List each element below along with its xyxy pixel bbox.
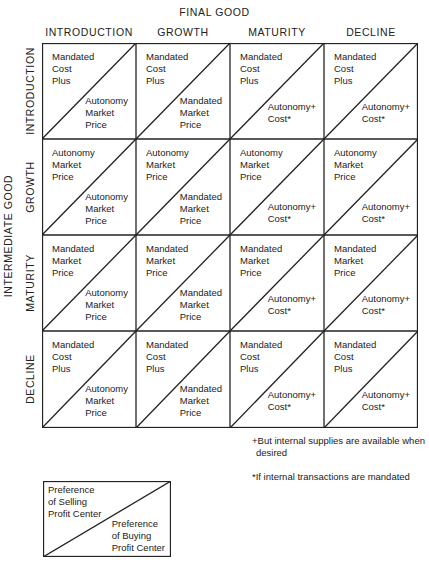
- selling-preference: MandatedCostPlus: [52, 339, 94, 375]
- text-line: Market: [240, 255, 282, 267]
- buying-preference: Autonomy+Cost*: [362, 389, 410, 413]
- text-line: Price: [180, 311, 222, 323]
- footnote-line: +But internal supplies are available whe…: [252, 435, 425, 447]
- selling-preference: AutonomyMarketPrice: [52, 147, 95, 183]
- text-line: Cost*: [362, 305, 410, 317]
- cell-maturity-maturity: MandatedMarketPrice Autonomy+Cost*: [230, 235, 324, 331]
- buying-preference: AutonomyMarketPrice: [85, 95, 128, 131]
- text-line: Market: [146, 255, 188, 267]
- cell-maturity-intro: MandatedMarketPrice AutonomyMarketPrice: [42, 235, 136, 331]
- text-line: Cost*: [268, 213, 316, 225]
- column-header-growth: GROWTH: [136, 26, 230, 38]
- text-line: Autonomy: [85, 95, 128, 107]
- cell-decline-maturity: MandatedCostPlus Autonomy+Cost*: [230, 331, 324, 427]
- text-line: Market: [180, 395, 222, 407]
- text-line: Autonomy+: [268, 293, 316, 305]
- selling-preference: AutonomyMarketPrice: [240, 147, 283, 183]
- column-header-maturity: MATURITY: [230, 26, 324, 38]
- text-line: Price: [85, 407, 128, 419]
- text-line: Cost*: [268, 113, 316, 125]
- final-good-axis-title: FINAL GOOD: [0, 6, 429, 18]
- text-line: Price: [52, 171, 95, 183]
- column-header-introduction: INTRODUCTION: [42, 26, 136, 38]
- text-line: Price: [180, 407, 222, 419]
- selling-preference: MandatedCostPlus: [240, 339, 282, 375]
- text-line: Autonomy: [85, 383, 128, 395]
- text-line: Cost*: [362, 213, 410, 225]
- cell-intro-growth: MandatedCostPlus MandatedMarketPrice: [136, 43, 230, 139]
- buying-preference: MandatedMarketPrice: [180, 95, 222, 131]
- selling-preference: AutonomyMarketPrice: [146, 147, 189, 183]
- text-line: Plus: [146, 75, 188, 87]
- text-line: of Buying: [112, 530, 165, 542]
- selling-preference: MandatedCostPlus: [334, 339, 376, 375]
- text-line: Market: [240, 159, 283, 171]
- buying-preference: Autonomy+Cost*: [362, 101, 410, 125]
- text-line: Market: [334, 255, 376, 267]
- selling-preference: AutonomyMarketPrice: [334, 147, 377, 183]
- row-header-decline: DECLINE: [24, 331, 38, 427]
- text-line: Mandated: [334, 243, 376, 255]
- text-line: Cost*: [362, 113, 410, 125]
- text-line: Plus: [52, 75, 94, 87]
- text-line: Cost: [240, 351, 282, 363]
- text-line: Mandated: [52, 51, 94, 63]
- text-line: Mandated: [334, 51, 376, 63]
- text-line: Market: [334, 159, 377, 171]
- text-line: Autonomy+: [268, 101, 316, 113]
- text-line: Mandated: [180, 287, 222, 299]
- cell-growth-maturity: AutonomyMarketPrice Autonomy+Cost*: [230, 139, 324, 235]
- text-line: Price: [334, 267, 376, 279]
- text-line: Autonomy: [240, 147, 283, 159]
- buying-preference: Autonomy+Cost*: [362, 201, 410, 225]
- text-line: Price: [240, 171, 283, 183]
- text-line: Cost: [146, 63, 188, 75]
- footnote-line: desired: [252, 447, 425, 459]
- text-line: Autonomy+: [362, 101, 410, 113]
- transfer-pricing-matrix: MandatedCostPlus AutonomyMarketPrice Man…: [42, 43, 418, 428]
- text-line: Cost*: [362, 401, 410, 413]
- text-line: Market: [85, 395, 128, 407]
- text-line: of Selling: [48, 496, 101, 508]
- text-line: Market: [52, 255, 94, 267]
- text-line: Market: [85, 107, 128, 119]
- text-line: Plus: [146, 363, 188, 375]
- legend-box: Preferenceof SellingProfit Center Prefer…: [43, 481, 171, 557]
- text-line: Cost*: [268, 305, 316, 317]
- cell-decline-growth: MandatedCostPlus MandatedMarketPrice: [136, 331, 230, 427]
- selling-preference: MandatedMarketPrice: [334, 243, 376, 279]
- selling-preference: MandatedCostPlus: [52, 51, 94, 87]
- buying-preference: MandatedMarketPrice: [180, 191, 222, 227]
- selling-preference: MandatedCostPlus: [146, 339, 188, 375]
- text-line: Price: [52, 267, 94, 279]
- text-line: Plus: [334, 363, 376, 375]
- text-line: Cost: [240, 63, 282, 75]
- text-line: Mandated: [240, 51, 282, 63]
- text-line: Market: [85, 299, 128, 311]
- buying-preference: Autonomy+Cost*: [268, 293, 316, 317]
- text-line: Price: [85, 215, 128, 227]
- text-line: Price: [146, 171, 189, 183]
- row-header-maturity: MATURITY: [24, 235, 38, 331]
- text-line: Cost: [146, 351, 188, 363]
- selling-preference: MandatedMarketPrice: [240, 243, 282, 279]
- column-header-decline: DECLINE: [324, 26, 418, 38]
- cell-decline-intro: MandatedCostPlus AutonomyMarketPrice: [42, 331, 136, 427]
- row-header-introduction: INTRODUCTION: [24, 43, 38, 139]
- text-line: Price: [334, 171, 377, 183]
- text-line: Autonomy+: [268, 389, 316, 401]
- cell-maturity-growth: MandatedMarketPrice MandatedMarketPrice: [136, 235, 230, 331]
- selling-preference: MandatedCostPlus: [240, 51, 282, 87]
- text-line: Cost: [334, 351, 376, 363]
- text-line: Mandated: [334, 339, 376, 351]
- text-line: Mandated: [146, 339, 188, 351]
- text-line: Cost*: [268, 401, 316, 413]
- buying-preference: MandatedMarketPrice: [180, 287, 222, 323]
- text-line: Preference: [112, 518, 165, 530]
- text-line: Mandated: [180, 383, 222, 395]
- text-line: Plus: [52, 363, 94, 375]
- text-line: Autonomy+: [362, 293, 410, 305]
- text-line: Profit Center: [112, 542, 165, 554]
- text-line: Autonomy+: [268, 201, 316, 213]
- text-line: Mandated: [52, 243, 94, 255]
